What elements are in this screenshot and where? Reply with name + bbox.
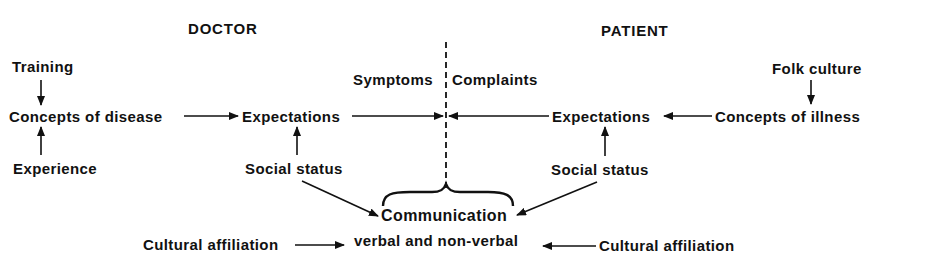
node-folk-culture: Folk culture xyxy=(772,61,862,76)
node-patient-expectations: Expectations xyxy=(552,109,650,124)
node-doctor-expectations: Expectations xyxy=(242,109,340,124)
node-patient-social-status: Social status xyxy=(551,162,649,177)
node-concepts-of-disease: Concepts of disease xyxy=(9,109,162,124)
node-doctor-social-status: Social status xyxy=(245,161,343,176)
curly-brace xyxy=(383,184,513,206)
label-symptoms: Symptoms xyxy=(353,72,433,87)
arrow-doctor-social-to-communication xyxy=(302,181,378,216)
node-concepts-of-illness: Concepts of illness xyxy=(715,109,860,124)
node-communication-subtitle: verbal and non-verbal xyxy=(354,233,518,248)
node-patient-cultural-affiliation: Cultural affiliation xyxy=(599,238,735,253)
arrow-patient-social-to-communication xyxy=(517,182,597,215)
node-training: Training xyxy=(12,59,74,74)
patient-header: PATIENT xyxy=(601,23,669,38)
doctor-header: DOCTOR xyxy=(188,21,258,36)
node-communication: Communication xyxy=(381,208,507,224)
node-experience: Experience xyxy=(13,161,97,176)
label-complaints: Complaints xyxy=(452,72,538,87)
node-doctor-cultural-affiliation: Cultural affiliation xyxy=(143,237,279,252)
